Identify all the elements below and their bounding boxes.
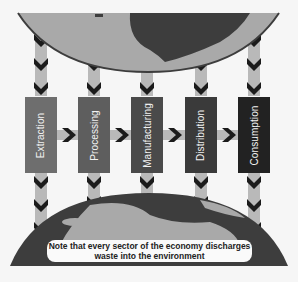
- stage-label: Extraction: [36, 112, 47, 157]
- stage-extraction: Extraction: [25, 97, 57, 173]
- stage-label: Manufacturing: [142, 103, 153, 168]
- stage-label: Distribution: [196, 109, 207, 160]
- waste-flow-diagram: Extraction Processing Manufacturing Dist…: [0, 0, 298, 282]
- note-line-2: waste into the environment: [47, 252, 252, 262]
- note-callout: Note that every sector of the economy di…: [47, 240, 252, 262]
- stage-label: Processing: [89, 110, 100, 160]
- top-earth-icon: [18, 13, 279, 72]
- stage-label: Consumption: [249, 105, 260, 165]
- stage-consumption: Consumption: [238, 97, 270, 173]
- stage-manufacturing: Manufacturing: [131, 97, 163, 173]
- stage-distribution: Distribution: [185, 97, 217, 173]
- stage-processing: Processing: [78, 97, 110, 173]
